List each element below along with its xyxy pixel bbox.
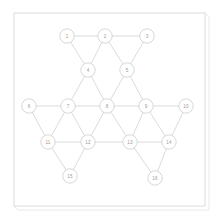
- node-label-9: 9: [145, 104, 148, 109]
- graph-edge-2-4: [91, 42, 102, 63]
- graph-edge-4-8: [91, 76, 103, 99]
- graph-edge-4-7: [72, 76, 85, 99]
- graph-edge-11-15: [52, 148, 66, 170]
- graph-edge-2-5: [109, 42, 123, 64]
- graph-edge-3-5: [131, 42, 144, 64]
- node-label-14: 14: [166, 140, 172, 145]
- graph-edge-10-14: [172, 113, 183, 136]
- graph-edge-14-16: [158, 149, 167, 172]
- graph-edge-13-16: [134, 148, 151, 172]
- graph-node-13[interactable]: 13: [123, 135, 137, 149]
- graph-node-6[interactable]: 6: [22, 99, 36, 113]
- graph-diagram: 12345678910111213141516: [0, 0, 219, 220]
- graph-node-5[interactable]: 5: [120, 63, 134, 77]
- node-label-1: 1: [66, 34, 69, 39]
- graph-node-11[interactable]: 11: [41, 135, 55, 149]
- node-label-8: 8: [106, 104, 109, 109]
- graph-node-1[interactable]: 1: [60, 29, 74, 43]
- graph-nodes: 12345678910111213141516: [22, 29, 193, 185]
- graph-node-8[interactable]: 8: [100, 99, 114, 113]
- graph-node-9[interactable]: 9: [139, 99, 153, 113]
- node-label-5: 5: [126, 68, 129, 73]
- graph-edge-6-11: [32, 112, 44, 135]
- graph-edge-5-9: [130, 76, 142, 99]
- graph-edge-9-13: [133, 113, 143, 136]
- node-label-13: 13: [127, 140, 133, 145]
- node-label-3: 3: [146, 34, 149, 39]
- graph-node-16[interactable]: 16: [148, 171, 162, 185]
- graph-node-10[interactable]: 10: [179, 99, 193, 113]
- node-label-15: 15: [67, 174, 73, 179]
- node-label-7: 7: [67, 104, 70, 109]
- graph-edge-7-12: [72, 112, 85, 135]
- frame-corner-top-right: [205, 13, 209, 17]
- graph-edge-8-13: [111, 112, 126, 136]
- graph-node-7[interactable]: 7: [61, 99, 75, 113]
- node-label-4: 4: [87, 68, 90, 73]
- node-label-12: 12: [85, 140, 91, 145]
- node-label-6: 6: [28, 104, 31, 109]
- graph-node-12[interactable]: 12: [81, 135, 95, 149]
- graph-node-15[interactable]: 15: [63, 169, 77, 183]
- graph-node-14[interactable]: 14: [162, 135, 176, 149]
- graph-edge-12-15: [73, 148, 84, 169]
- graph-edge-8-12: [91, 112, 103, 135]
- graph-edge-1-4: [71, 42, 84, 64]
- graph-edge-7-11: [52, 112, 65, 135]
- diagram-canvas: 12345678910111213141516: [0, 0, 219, 220]
- graph-edge-9-14: [150, 112, 165, 136]
- node-label-11: 11: [46, 140, 51, 145]
- frame-corner-bottom-left: [14, 206, 18, 210]
- graph-node-4[interactable]: 4: [81, 63, 95, 77]
- node-label-2: 2: [104, 34, 107, 39]
- frame-shadow-edge: [18, 17, 209, 210]
- graph-node-3[interactable]: 3: [140, 29, 154, 43]
- node-label-10: 10: [183, 104, 189, 109]
- graph-edge-5-8: [111, 76, 124, 99]
- graph-node-2[interactable]: 2: [98, 29, 112, 43]
- node-label-16: 16: [152, 176, 158, 181]
